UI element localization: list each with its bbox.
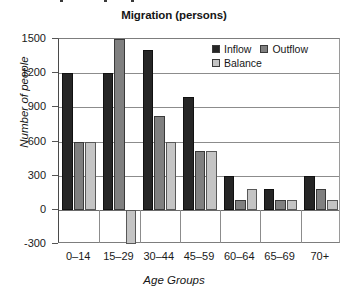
bar-outflow-70+ bbox=[316, 189, 327, 210]
legend-row-2: Balance bbox=[212, 56, 338, 70]
bar-balance-30–44 bbox=[166, 142, 177, 210]
bar-inflow-65–69 bbox=[264, 189, 275, 210]
y-tick-label-1200: 1200 bbox=[2, 67, 46, 78]
bar-inflow-30–44 bbox=[143, 50, 154, 209]
y-tick-label-600: 600 bbox=[2, 136, 46, 147]
bar-balance-60–64 bbox=[247, 189, 258, 210]
legend-swatch-balance bbox=[212, 59, 220, 67]
bar-outflow-15–29 bbox=[114, 39, 125, 210]
y-tick-mark--300 bbox=[52, 243, 58, 244]
bar-outflow-0–14 bbox=[74, 142, 85, 210]
bar-outflow-45–59 bbox=[195, 151, 206, 210]
bar-balance-65–69 bbox=[287, 200, 298, 210]
scan-artifact-strip bbox=[0, 0, 348, 5]
bar-outflow-60–64 bbox=[235, 200, 246, 210]
bar-inflow-15–29 bbox=[103, 73, 114, 210]
x-tick-label-70+: 70+ bbox=[294, 250, 346, 262]
legend-entry-inflow: Inflow bbox=[212, 44, 251, 55]
y-tick-label-300: 300 bbox=[2, 170, 46, 181]
legend-entry-balance: Balance bbox=[212, 58, 262, 69]
bar-balance-0–14 bbox=[85, 142, 96, 210]
bar-inflow-70+ bbox=[304, 176, 315, 210]
bar-outflow-65–69 bbox=[275, 200, 286, 210]
legend-entry-outflow: Outflow bbox=[260, 44, 308, 55]
bar-inflow-60–64 bbox=[224, 176, 235, 210]
legend-swatch-outflow bbox=[260, 45, 268, 53]
bar-balance-45–59 bbox=[206, 151, 217, 210]
bar-inflow-0–14 bbox=[62, 73, 73, 210]
x-axis-title: Age Groups bbox=[0, 274, 348, 286]
y-tick-label-0: 0 bbox=[2, 204, 46, 215]
bar-group-0–14 bbox=[59, 39, 99, 242]
bar-balance-70+ bbox=[327, 200, 338, 210]
legend-label-outflow: Outflow bbox=[272, 44, 308, 55]
bar-group-30–44 bbox=[140, 39, 180, 242]
bar-group-15–29 bbox=[99, 39, 139, 242]
bar-outflow-30–44 bbox=[154, 116, 165, 209]
y-tick-label-1500: 1500 bbox=[2, 33, 46, 44]
y-tick-label--300: -300 bbox=[2, 238, 46, 249]
y-tick-label-900: 900 bbox=[2, 101, 46, 112]
legend-label-balance: Balance bbox=[224, 58, 262, 69]
legend-row-1: Inflow Outflow bbox=[212, 42, 338, 56]
legend-label-inflow: Inflow bbox=[224, 44, 251, 55]
legend-swatch-inflow bbox=[212, 45, 220, 53]
chart-legend: Inflow Outflow Balance bbox=[212, 42, 338, 70]
bar-balance-15–29 bbox=[126, 210, 137, 244]
bar-inflow-45–59 bbox=[183, 97, 194, 210]
chart-title: Migration (persons) bbox=[0, 9, 348, 21]
